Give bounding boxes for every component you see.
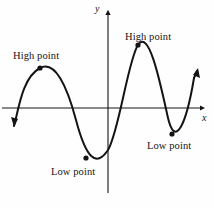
figure-canvas	[0, 0, 214, 209]
sinusoid-figure: High point High point Low point Low poin…	[0, 0, 214, 209]
point-low-left	[83, 155, 88, 160]
label-high-point-right: High point	[125, 31, 171, 42]
label-high-point-left: High point	[13, 50, 59, 61]
x-axis-label: x	[202, 112, 206, 123]
point-high-left	[37, 65, 42, 70]
label-low-point-right: Low point	[147, 140, 191, 151]
curve-left-arrow-icon	[11, 117, 18, 127]
point-high-right	[135, 42, 140, 47]
point-low-right	[169, 131, 174, 136]
y-axis-label: y	[95, 3, 99, 14]
label-low-point-left: Low point	[51, 166, 95, 177]
